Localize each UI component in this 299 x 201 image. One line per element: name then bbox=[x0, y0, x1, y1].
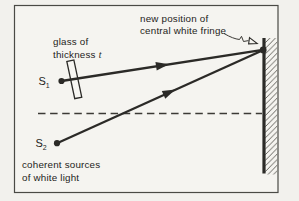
ray-diagram-canvas: new position of central white fringe gla… bbox=[0, 0, 299, 201]
new-position-label-line2: central white fringe bbox=[140, 25, 227, 36]
source-s1-dot bbox=[58, 78, 64, 84]
source-s2-dot bbox=[54, 140, 60, 146]
fringe-point-dot bbox=[260, 47, 267, 54]
source-s1-subscript: 1 bbox=[46, 82, 50, 89]
glass-label-thickness-word: thickness bbox=[53, 49, 96, 60]
screen-hatching bbox=[265, 38, 277, 175]
glass-label-line1: glass of bbox=[53, 36, 88, 47]
sources-caption-line1: coherent sources bbox=[22, 159, 100, 170]
glass-label-line2: thicknesst bbox=[53, 49, 102, 60]
new-position-label-line1: new position of bbox=[140, 13, 208, 24]
sources-caption-line2: of white light bbox=[22, 172, 79, 183]
textbook-figure: new position of central white fringe gla… bbox=[0, 0, 299, 201]
glass-thickness-symbol: t bbox=[99, 49, 102, 60]
source-s2-subscript: 2 bbox=[43, 144, 47, 151]
